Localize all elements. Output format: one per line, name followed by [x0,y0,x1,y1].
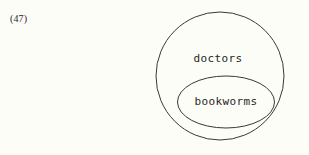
inner-set-label: bookworms [194,95,257,108]
figure-canvas: (47) doctors bookworms [0,0,309,155]
outer-set-label: doctors [193,52,242,65]
euler-diagram [0,0,309,155]
